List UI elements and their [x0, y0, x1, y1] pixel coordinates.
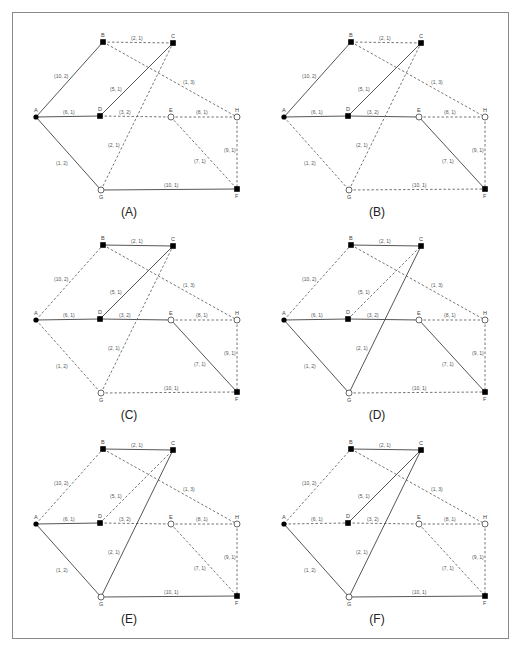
edge-b-c-selected	[351, 245, 421, 246]
edge-label-b-c: (2, 1)	[379, 442, 391, 448]
edge-label-a-g: (1, 2)	[56, 363, 68, 369]
node-label-e: E	[169, 107, 173, 113]
node-b-filled-square	[348, 446, 354, 452]
edge-d-e-selected	[348, 116, 419, 117]
edge-label-g-c: (2, 1)	[356, 345, 368, 351]
node-label-f: F	[483, 396, 487, 402]
node-e-open-circle	[416, 114, 422, 120]
node-label-e: E	[417, 310, 421, 316]
node-label-g: G	[347, 397, 351, 403]
edge-g-f-unselected	[101, 392, 237, 393]
edge-label-d-c: (5, 1)	[358, 86, 370, 92]
edge-a-g-selected	[36, 524, 101, 597]
graph-panel-a: (10, 2)(2, 1)(1, 3)(6, 1)(5, 1)(3, 2)(8,…	[33, 32, 240, 219]
edge-e-f-selected	[419, 320, 485, 392]
edge-label-e-f: (7, 1)	[194, 361, 206, 367]
edge-label-d-c: (5, 1)	[358, 493, 370, 499]
node-h-open-circle	[482, 114, 488, 120]
edge-a-b-unselected	[284, 449, 351, 524]
edge-label-h-f: (9, 1)	[472, 350, 484, 356]
node-c-filled-square	[418, 40, 424, 46]
node-label-e: E	[169, 514, 173, 520]
node-d-filled-square	[345, 316, 351, 322]
edge-a-g-unselected	[284, 117, 349, 190]
edge-e-f-unselected	[171, 117, 237, 189]
node-label-b: B	[349, 439, 353, 445]
node-c-filled-square	[170, 447, 176, 453]
node-c-filled-square	[170, 40, 176, 46]
edge-label-b-h: (1, 3)	[431, 282, 443, 288]
node-label-d: D	[98, 106, 102, 112]
node-b-filled-square	[100, 39, 106, 45]
node-c-filled-square	[418, 243, 424, 249]
edge-label-h-f: (9, 1)	[224, 350, 236, 356]
edge-e-f-selected	[419, 117, 485, 189]
edge-label-h-f: (9, 1)	[224, 147, 236, 153]
edge-label-g-f: (10, 1)	[412, 182, 427, 188]
node-label-c: C	[171, 33, 175, 39]
edge-label-d-e: (3, 2)	[119, 516, 131, 522]
edge-label-e-f: (7, 1)	[442, 361, 454, 367]
edge-b-h-unselected	[351, 245, 485, 320]
edge-label-e-f: (7, 1)	[194, 158, 206, 164]
edge-d-c-selected	[100, 246, 173, 319]
node-label-e: E	[417, 514, 421, 520]
node-g-open-circle	[98, 187, 104, 193]
node-e-open-circle	[168, 317, 174, 323]
edge-label-b-c: (2, 1)	[131, 238, 143, 244]
panel-caption: (B)	[369, 205, 385, 219]
edge-a-b-unselected	[36, 449, 103, 524]
edge-label-a-g: (1, 2)	[56, 567, 68, 573]
node-c-filled-square	[418, 447, 424, 453]
node-label-a: A	[34, 310, 38, 316]
node-b-filled-square	[100, 446, 106, 452]
node-label-f: F	[235, 600, 239, 606]
edge-label-b-c: (2, 1)	[131, 442, 143, 448]
edge-d-c-selected	[100, 43, 173, 116]
edge-label-a-g: (1, 2)	[304, 363, 316, 369]
edge-label-e-h: (8, 1)	[196, 516, 208, 522]
edge-g-f-selected	[101, 596, 237, 597]
panel-caption: (C)	[121, 408, 138, 422]
edge-label-e-f: (7, 1)	[442, 158, 454, 164]
edge-label-g-f: (10, 1)	[164, 589, 179, 595]
node-h-open-circle	[482, 317, 488, 323]
node-label-a: A	[282, 514, 286, 520]
edge-label-b-h: (1, 3)	[183, 486, 195, 492]
node-g-open-circle	[98, 390, 104, 396]
node-label-g: G	[99, 601, 103, 607]
edge-e-f-unselected	[171, 524, 237, 596]
edge-label-d-c: (5, 1)	[110, 493, 122, 499]
edge-a-d-unselected	[284, 523, 348, 524]
node-g-open-circle	[346, 390, 352, 396]
edge-label-g-f: (10, 1)	[412, 385, 427, 391]
edge-d-c-unselected	[348, 246, 421, 319]
node-f-filled-square	[482, 593, 488, 599]
edge-d-e-unselected	[348, 523, 419, 524]
edge-d-e-selected	[100, 319, 171, 320]
edge-label-g-f: (10, 1)	[412, 589, 427, 595]
node-label-d: D	[346, 513, 350, 519]
edge-label-b-h: (1, 3)	[183, 79, 195, 85]
panel-caption: (E)	[121, 612, 137, 626]
edge-d-c-unselected	[100, 450, 173, 523]
edge-label-e-h: (8, 1)	[444, 516, 456, 522]
edge-label-h-f: (9, 1)	[224, 554, 236, 560]
edge-d-e-unselected	[100, 523, 171, 524]
edge-label-a-b: (10, 2)	[302, 480, 317, 486]
node-g-open-circle	[346, 187, 352, 193]
edge-g-f-selected	[349, 596, 485, 597]
node-label-f: F	[483, 193, 487, 199]
edge-a-g-selected	[36, 117, 101, 190]
edge-label-g-f: (10, 1)	[164, 182, 179, 188]
panel-caption: (F)	[369, 612, 384, 626]
edge-label-d-c: (5, 1)	[358, 289, 370, 295]
edge-label-a-d: (6, 1)	[63, 109, 75, 115]
graph-panel-c: (10, 2)(2, 1)(1, 3)(6, 1)(5, 1)(3, 2)(8,…	[33, 235, 240, 422]
node-f-filled-square	[482, 186, 488, 192]
edge-label-a-d: (6, 1)	[311, 312, 323, 318]
edge-a-b-selected	[36, 42, 103, 117]
node-label-a: A	[34, 107, 38, 113]
edge-a-b-unselected	[36, 245, 103, 320]
node-label-a: A	[34, 514, 38, 520]
